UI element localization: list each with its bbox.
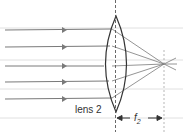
lens-label: lens 2 — [75, 104, 102, 115]
focal-length-label: f2 — [134, 112, 141, 125]
refracted-rays — [112, 29, 177, 98]
incoming-rays — [5, 29, 112, 99]
focal-subscript: 2 — [137, 118, 141, 125]
arrowheads — [62, 27, 67, 102]
